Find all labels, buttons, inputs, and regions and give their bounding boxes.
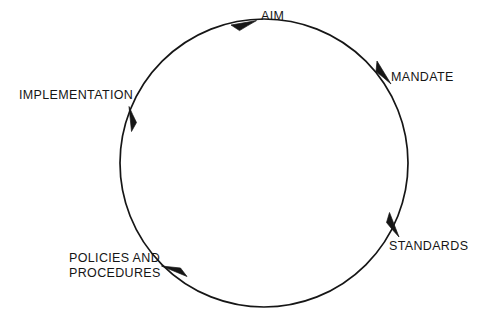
stage-label-policies-and-procedures: POLICIES ANDPROCEDURES [69, 251, 161, 280]
stage-label-standards: STANDARDS [389, 239, 468, 253]
stage-label-aim: AIM [261, 9, 284, 23]
stage-label-policies-line-2: PROCEDURES [69, 266, 161, 280]
stage-label-implementation: IMPLEMENTATION [19, 88, 133, 102]
cycle-circle [120, 19, 408, 307]
diagram-canvas: AIM MANDATE STANDARDS POLICIES ANDPROCED… [0, 0, 488, 319]
stage-label-mandate: MANDATE [391, 70, 454, 84]
stage-label-policies-line-1: POLICIES AND [69, 251, 160, 265]
arrowhead-implementation [129, 107, 137, 132]
arrowhead-mandate [376, 61, 391, 84]
